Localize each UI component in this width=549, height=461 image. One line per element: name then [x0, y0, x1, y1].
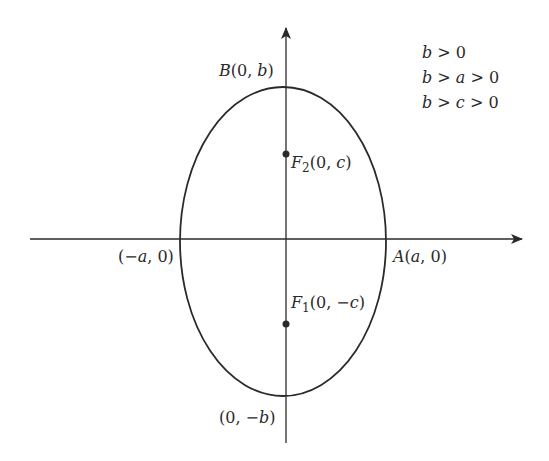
condition-2: b > a > 0 [422, 68, 499, 87]
label-top-vertex: B(0, b) [218, 61, 274, 80]
condition-1: b > 0 [422, 43, 466, 62]
label-right-vertex: A(a, 0) [391, 247, 447, 266]
label-focus-lower: F1(0, −c) [290, 293, 365, 315]
ellipse-diagram: B(0, b) F2(0, c) (−a, 0) A(a, 0) F1(0, −… [0, 0, 549, 461]
ellipse-curve [180, 87, 386, 396]
focus-f1-point [283, 321, 290, 328]
label-left-vertex: (−a, 0) [118, 247, 174, 266]
label-bottom-vertex: (0, −b) [219, 408, 276, 427]
focus-f2-point [283, 151, 290, 158]
condition-3: b > c > 0 [422, 93, 499, 112]
label-focus-upper: F2(0, c) [290, 153, 352, 175]
